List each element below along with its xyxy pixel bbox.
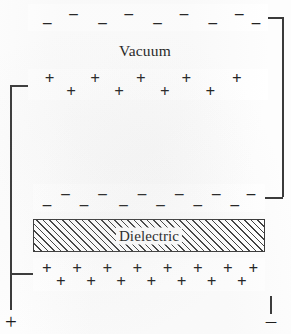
plus-charge-icon: + — [163, 260, 173, 277]
minus-charge-icon: – — [153, 14, 162, 31]
figure-canvas: –––––––––+++++++++––––––––––––++++++++++… — [0, 0, 291, 334]
minus-charge-icon: – — [252, 14, 261, 31]
minus-charge-icon: – — [180, 4, 189, 21]
charge-layer: +++++++++++++++ — [33, 258, 265, 291]
plus-charge-icon: + — [90, 70, 100, 87]
plus-charge-icon: + — [72, 260, 82, 277]
plus-charge-icon: + — [177, 273, 187, 290]
minus-charge-icon: – — [43, 195, 52, 212]
plus-charge-icon: + — [223, 260, 233, 277]
plus-charge-icon: + — [207, 273, 217, 290]
plus-charge-icon: + — [206, 82, 216, 99]
plus-charge-icon: + — [42, 260, 52, 277]
plus-charge-icon: + — [56, 273, 66, 290]
charge-layer: +++++++++ — [28, 69, 268, 100]
plus-charge-icon: + — [133, 260, 143, 277]
plus-charge-icon: + — [114, 82, 124, 99]
plus-charge-icon: + — [86, 273, 96, 290]
wire-left-to-plate4 — [10, 273, 34, 275]
minus-charge-icon: – — [61, 184, 70, 201]
minus-charge-icon: – — [247, 184, 256, 201]
bottom-positive-plate: +++++++++++++++ — [33, 258, 265, 291]
minus-charge-icon: – — [156, 195, 165, 212]
top-negative-plate: ––––––––– — [28, 4, 268, 31]
plus-charge-icon: + — [160, 82, 170, 99]
minus-charge-icon: – — [98, 14, 107, 31]
plus-charge-icon: + — [66, 82, 76, 99]
plus-charge-icon: + — [182, 70, 192, 87]
plus-charge-icon: + — [146, 273, 156, 290]
plus-charge-icon: + — [136, 70, 146, 87]
plus-charge-icon: + — [45, 70, 55, 87]
minus-charge-icon: – — [69, 4, 78, 21]
second-positive-plate: +++++++++ — [28, 69, 268, 100]
minus-charge-icon: – — [175, 184, 184, 201]
wire-right-vertical — [282, 17, 284, 197]
charge-layer: ––––––––– — [28, 4, 268, 31]
minus-charge-icon: – — [212, 184, 221, 201]
charge-layer: –––––––––––– — [33, 184, 265, 212]
wire-left-vertical — [10, 85, 12, 310]
dielectric-label: Dielectric — [116, 227, 182, 244]
minus-charge-icon: – — [138, 184, 147, 201]
plus-charge-icon: + — [193, 260, 203, 277]
plus-charge-icon: + — [249, 260, 259, 277]
plus-charge-icon: + — [237, 273, 247, 290]
minus-charge-icon: – — [98, 184, 107, 201]
minus-charge-icon: – — [235, 4, 244, 21]
wire-right-to-plate3 — [265, 197, 283, 199]
minus-charge-icon: – — [125, 4, 134, 21]
dielectric-slab: Dielectric — [33, 219, 265, 252]
positive-terminal-label: + — [5, 312, 17, 333]
minus-charge-icon: – — [231, 195, 240, 212]
minus-charge-icon: – — [119, 195, 128, 212]
plus-charge-icon: + — [116, 273, 126, 290]
negative-terminal-label: – — [266, 311, 277, 332]
minus-charge-icon: – — [43, 14, 52, 31]
plus-charge-icon: + — [232, 70, 242, 87]
third-negative-plate: –––––––––––– — [33, 184, 265, 212]
minus-charge-icon: – — [193, 195, 202, 212]
wire-left-stub-plate2 — [10, 85, 29, 87]
minus-charge-icon: – — [209, 14, 218, 31]
plus-charge-icon: + — [102, 260, 112, 277]
minus-charge-icon: – — [80, 195, 89, 212]
vacuum-label: Vacuum — [119, 42, 171, 60]
